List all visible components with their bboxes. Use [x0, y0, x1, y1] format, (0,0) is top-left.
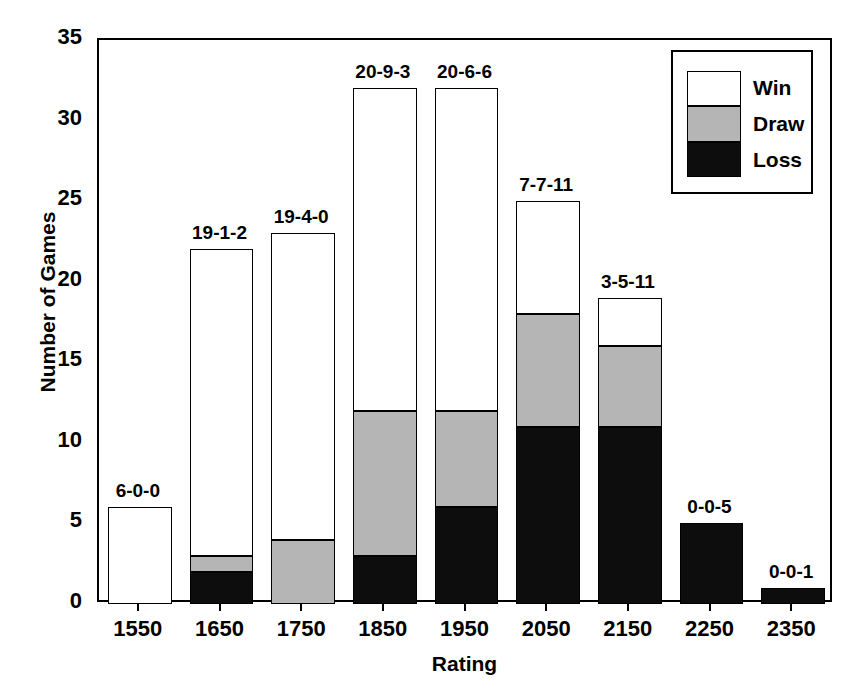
bar-segment-draw [190, 556, 254, 572]
y-axis-title: Number of Games [36, 192, 60, 412]
bar-label-1950: 20-6-6 [405, 61, 525, 83]
bar-2150[interactable] [598, 298, 662, 604]
bar-segment-win [190, 249, 254, 555]
legend-label-win: Win [753, 76, 791, 100]
chart-container: Number of Games Rating 05101520253035 15… [0, 0, 862, 689]
y-tick-label: 15 [20, 346, 82, 372]
bar-1950[interactable] [435, 88, 499, 604]
x-tick-label: 2350 [741, 616, 841, 642]
bar-segment-loss [516, 427, 580, 604]
legend-label-draw: Draw [753, 112, 804, 136]
bar-label-1750: 19-4-0 [241, 206, 361, 228]
legend-swatch-draw [687, 106, 741, 141]
bar-label-2350: 0-0-1 [731, 561, 851, 583]
y-tick-label: 25 [20, 185, 82, 211]
y-tick-label: 0 [20, 588, 82, 614]
bar-segment-loss [190, 572, 254, 604]
bar-2350[interactable] [761, 588, 825, 604]
bar-segment-loss [353, 556, 417, 604]
y-tick-label: 5 [20, 507, 82, 533]
bar-segment-win [271, 233, 335, 539]
bar-segment-win [435, 88, 499, 410]
bar-segment-draw [598, 346, 662, 427]
x-axis-title: Rating [97, 652, 832, 676]
bar-segment-win [108, 507, 172, 604]
bar-label-2150: 3-5-11 [568, 271, 688, 293]
y-tick-label: 35 [20, 24, 82, 50]
bar-segment-draw [516, 314, 580, 427]
bar-1750[interactable] [271, 233, 335, 604]
bar-segment-draw [271, 540, 335, 604]
bar-segment-draw [435, 411, 499, 508]
bar-1850[interactable] [353, 88, 417, 604]
bar-segment-draw [353, 411, 417, 556]
bar-segment-loss [435, 507, 499, 604]
legend-swatch [687, 71, 741, 177]
bar-label-2250: 0-0-5 [650, 496, 770, 518]
legend-swatch-win [687, 71, 741, 106]
bar-segment-loss [761, 588, 825, 604]
bar-segment-win [516, 201, 580, 314]
bar-label-1550: 6-0-0 [78, 480, 198, 502]
bar-segment-win [353, 88, 417, 410]
y-tick-label: 30 [20, 105, 82, 131]
bar-1550[interactable] [108, 507, 172, 604]
bar-2050[interactable] [516, 201, 580, 604]
bar-segment-win [598, 298, 662, 346]
legend-label-loss: Loss [753, 148, 802, 172]
legend: Win Draw Loss [671, 50, 813, 194]
bar-1650[interactable] [190, 249, 254, 604]
bar-label-2050: 7-7-11 [486, 174, 606, 196]
legend-swatch-loss [687, 142, 741, 177]
y-tick-label: 20 [20, 266, 82, 292]
y-tick-label: 10 [20, 427, 82, 453]
